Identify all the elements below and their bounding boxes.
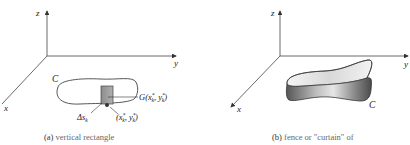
- G-point-label: G(x*k, y*k): [139, 92, 167, 103]
- sample-point: [105, 103, 109, 107]
- curve-c-label-b: C: [369, 100, 376, 110]
- figure-canvas: z y x C G(x*k, y*k) Δsk (x*k, y*k) (a) v…: [0, 0, 410, 145]
- panel-a: z y x C G(x*k, y*k) Δsk (x*k, y*k) (a) v…: [2, 8, 178, 142]
- y-axis-label-b: y: [403, 59, 408, 69]
- z-axis-label-a: z: [35, 8, 40, 18]
- axes-a: [2, 11, 176, 104]
- x-axis-label-b: x: [236, 104, 241, 114]
- curve-c-label-a: C: [52, 74, 59, 84]
- caption-a: (a) vertical rectangle: [44, 132, 115, 142]
- vertical-rectangle: [101, 86, 113, 104]
- caption-b: (b) fence or "curtain" of: [272, 132, 354, 142]
- y-axis-label-a: y: [173, 58, 178, 68]
- curve-c-a: [57, 79, 138, 104]
- leader-delta: [91, 103, 102, 113]
- x-axis-b: [231, 56, 280, 107]
- x-axis-a: [2, 56, 47, 104]
- z-axis-label-b: z: [270, 8, 275, 18]
- x-axis-label-a: x: [3, 103, 8, 113]
- delta-s-label: Δsk: [76, 112, 88, 123]
- panel-b: z y x C (b) fence or "curtain" of: [231, 8, 408, 142]
- sample-point-label: (x*k, y*k): [116, 112, 138, 123]
